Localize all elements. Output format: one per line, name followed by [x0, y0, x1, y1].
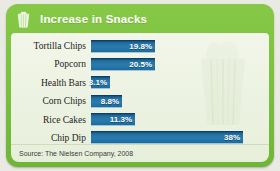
- bar-value: 11.3%: [110, 115, 135, 124]
- bar-value: 8.8%: [101, 97, 122, 106]
- bar-value: 38%: [224, 133, 243, 142]
- bar-value: 20.5%: [129, 60, 155, 69]
- bar-track: 11.3%: [91, 113, 269, 126]
- bar-track: 38%: [91, 131, 269, 144]
- chart-row: Popcorn 20.5%: [11, 56, 269, 72]
- snack-cup-icon: [16, 11, 31, 28]
- bar-track: 19.8%: [91, 40, 269, 53]
- bar[interactable]: 8.8%: [91, 95, 122, 108]
- bar[interactable]: 20.5%: [91, 58, 155, 71]
- bar-label: Tortilla Chips: [11, 41, 91, 51]
- bar-chart: Tortilla Chips 19.8% Popcorn 20.5% Healt…: [11, 38, 269, 142]
- bar[interactable]: 19.8%: [91, 40, 155, 53]
- page-title: Increase in Snacks: [40, 13, 147, 25]
- chart-row: Tortilla Chips 19.8%: [11, 38, 269, 54]
- chart-row: Rice Cakes 11.3%: [11, 112, 269, 128]
- bar-value: 19.8%: [129, 42, 155, 51]
- bar-label: Health Bars: [11, 78, 91, 88]
- chart-footer: Source: The Nielsen Company, 2008: [11, 144, 269, 162]
- chart-row: Corn Chips 8.8%: [11, 93, 269, 109]
- bar-label: Popcorn: [11, 59, 91, 69]
- bar[interactable]: 3.1%: [91, 76, 110, 89]
- chart-card: Increase in Snacks Tortilla Chips 19.8%: [6, 4, 274, 167]
- bar-track: 20.5%: [91, 58, 269, 71]
- bar[interactable]: 11.3%: [91, 113, 135, 126]
- bar-label: Rice Cakes: [11, 115, 91, 125]
- chart-row: Health Bars 3.1%: [11, 75, 269, 91]
- bar-label: Chip Dip: [11, 133, 91, 143]
- bar-label: Corn Chips: [11, 96, 91, 106]
- source-text: Source: The Nielsen Company, 2008: [19, 150, 133, 157]
- bar-value: 3.1%: [89, 78, 110, 87]
- bar-track: 3.1%: [91, 76, 269, 89]
- bar[interactable]: 38%: [91, 131, 243, 144]
- chart-panel: Tortilla Chips 19.8% Popcorn 20.5% Healt…: [11, 33, 269, 162]
- bar-track: 8.8%: [91, 95, 269, 108]
- card-header: Increase in Snacks: [6, 4, 274, 34]
